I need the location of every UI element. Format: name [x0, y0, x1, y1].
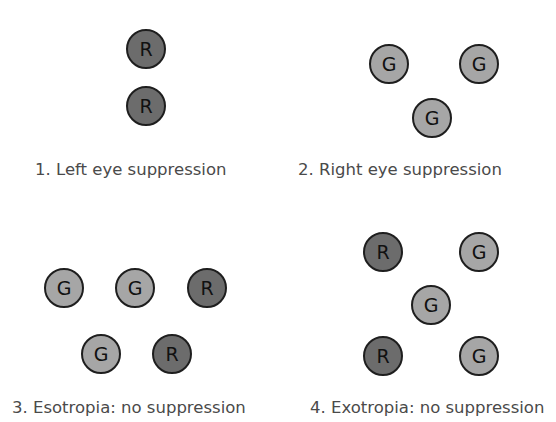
worth-four-dot-diagram: RR1. Left eye suppressionGGG2. Right eye…: [0, 0, 556, 422]
green-dot: G: [459, 44, 499, 84]
red-dot: R: [126, 86, 166, 126]
green-dot: G: [459, 232, 499, 272]
red-dot: R: [363, 336, 403, 376]
red-dot: R: [126, 29, 166, 69]
panel-label: 3. Esotropia: no suppression: [12, 398, 246, 417]
panel-label: 2. Right eye suppression: [298, 160, 502, 179]
red-dot: R: [187, 268, 227, 308]
green-dot: G: [115, 268, 155, 308]
green-dot: G: [412, 98, 452, 138]
green-dot: G: [369, 44, 409, 84]
panel-label: 1. Left eye suppression: [35, 160, 227, 179]
panel-label: 4. Exotropia: no suppression: [310, 398, 544, 417]
green-dot: G: [459, 336, 499, 376]
green-dot: G: [44, 268, 84, 308]
green-dot: G: [411, 285, 451, 325]
red-dot: R: [363, 232, 403, 272]
red-dot: R: [152, 334, 192, 374]
green-dot: G: [81, 334, 121, 374]
